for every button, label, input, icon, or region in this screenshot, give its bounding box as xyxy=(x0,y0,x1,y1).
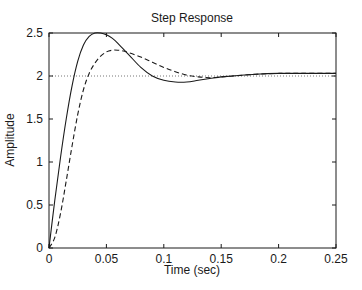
chart-title: Step Response xyxy=(151,11,233,25)
plot-frame xyxy=(49,33,336,248)
y-tick-label: 1 xyxy=(36,155,43,169)
series-solid-line xyxy=(49,33,336,248)
series-dashed-line xyxy=(49,50,336,248)
y-tick-label: 0.5 xyxy=(26,198,43,212)
y-axis-ticks: 00.511.522.5 xyxy=(26,26,336,255)
step-response-chart: Step Response 00.050.10.150.20.25 00.511… xyxy=(0,0,362,290)
x-tick-label: 0.2 xyxy=(270,252,287,266)
plot-area: 00.050.10.150.20.25 00.511.522.5 xyxy=(26,26,348,266)
x-tick-label: 0 xyxy=(46,252,53,266)
x-axis-label: Time (sec) xyxy=(164,263,220,277)
y-axis-label: Amplitude xyxy=(3,113,17,167)
y-tick-label: 2.5 xyxy=(26,26,43,40)
x-tick-label: 0.25 xyxy=(324,252,348,266)
x-tick-label: 0.05 xyxy=(95,252,119,266)
y-tick-label: 2 xyxy=(36,69,43,83)
series-layer xyxy=(49,33,336,248)
y-tick-label: 1.5 xyxy=(26,112,43,126)
y-tick-label: 0 xyxy=(36,241,43,255)
x-axis-ticks: 00.050.10.150.20.25 xyxy=(46,33,348,266)
